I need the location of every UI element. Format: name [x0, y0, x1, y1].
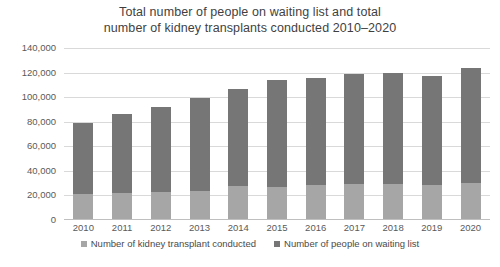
- x-axis-tick-label: 2017: [337, 222, 373, 236]
- legend-item[interactable]: Number of kidney transplant conducted: [81, 238, 256, 249]
- bar-segment-transplants[interactable]: [190, 191, 210, 220]
- y-axis-labels: 140,000120,000100,00080,00060,00040,0002…: [0, 48, 60, 220]
- chart-title-line-1: Total number of people on waiting list a…: [0, 4, 500, 20]
- bar-column[interactable]: [104, 48, 140, 220]
- bar-segment-transplants[interactable]: [267, 187, 287, 220]
- bar-column[interactable]: [65, 48, 101, 220]
- y-axis-tick-label: 40,000: [0, 166, 56, 176]
- stacked-bar[interactable]: [306, 78, 326, 220]
- legend-label: Number of people on waiting list: [284, 238, 419, 249]
- stacked-bar[interactable]: [383, 73, 403, 220]
- stacked-bar[interactable]: [112, 114, 132, 220]
- bar-segment-transplants[interactable]: [344, 184, 364, 220]
- bar-column[interactable]: [414, 48, 450, 220]
- bar-segment-waiting-list[interactable]: [228, 89, 248, 186]
- bar-group: [64, 48, 490, 220]
- x-axis-tick-label: 2020: [453, 222, 489, 236]
- bar-segment-waiting-list[interactable]: [151, 107, 171, 192]
- bar-segment-transplants[interactable]: [73, 194, 93, 220]
- bar-segment-transplants[interactable]: [112, 193, 132, 220]
- bar-segment-transplants[interactable]: [306, 185, 326, 220]
- bar-column[interactable]: [298, 48, 334, 220]
- bar-column[interactable]: [182, 48, 218, 220]
- stacked-bar[interactable]: [228, 89, 248, 220]
- x-axis-tick-label: 2019: [414, 222, 450, 236]
- y-axis-tick-label: 140,000: [0, 43, 56, 53]
- x-axis-tick-label: 2010: [65, 222, 101, 236]
- bar-column[interactable]: [143, 48, 179, 220]
- y-axis-tick-label: 60,000: [0, 141, 56, 151]
- bar-segment-waiting-list[interactable]: [344, 74, 364, 185]
- bar-column[interactable]: [375, 48, 411, 220]
- bar-column[interactable]: [453, 48, 489, 220]
- bar-segment-transplants[interactable]: [228, 186, 248, 220]
- chart-title-line-2: number of kidney transplants conducted 2…: [0, 20, 500, 36]
- bar-column[interactable]: [259, 48, 295, 220]
- x-axis-tick-label: 2013: [182, 222, 218, 236]
- bar-segment-waiting-list[interactable]: [190, 98, 210, 190]
- stacked-bar[interactable]: [344, 74, 364, 220]
- bar-segment-waiting-list[interactable]: [112, 114, 132, 193]
- chart-legend: Number of kidney transplant conductedNum…: [0, 238, 500, 249]
- x-axis-tick-label: 2014: [220, 222, 256, 236]
- y-axis-tick-label: 120,000: [0, 68, 56, 78]
- x-axis-tick-label: 2011: [104, 222, 140, 236]
- legend-swatch-icon: [81, 241, 87, 247]
- bar-segment-transplants[interactable]: [422, 185, 442, 220]
- bar-segment-transplants[interactable]: [383, 184, 403, 220]
- legend-label: Number of kidney transplant conducted: [91, 238, 256, 249]
- stacked-bar[interactable]: [73, 123, 93, 220]
- x-axis-tick-label: 2015: [259, 222, 295, 236]
- stacked-bar[interactable]: [267, 80, 287, 220]
- stacked-bar[interactable]: [422, 76, 442, 220]
- x-axis-tick-label: 2018: [375, 222, 411, 236]
- stacked-bar[interactable]: [461, 68, 481, 220]
- bar-segment-waiting-list[interactable]: [461, 68, 481, 183]
- y-axis-tick-label: 100,000: [0, 92, 56, 102]
- y-axis-tick-label: 0: [0, 215, 56, 225]
- bar-segment-waiting-list[interactable]: [422, 76, 442, 185]
- bar-segment-waiting-list[interactable]: [73, 123, 93, 194]
- bar-segment-waiting-list[interactable]: [306, 78, 326, 185]
- y-axis-tick-label: 20,000: [0, 190, 56, 200]
- y-axis-tick-label: 80,000: [0, 117, 56, 127]
- bar-segment-transplants[interactable]: [461, 183, 481, 220]
- chart-title: Total number of people on waiting list a…: [0, 4, 500, 36]
- chart-container: Total number of people on waiting list a…: [0, 0, 500, 267]
- x-axis-line: [64, 219, 490, 220]
- x-axis-labels: 2010201120122013201420152016201720182019…: [64, 222, 490, 236]
- x-axis-tick-label: 2012: [143, 222, 179, 236]
- plot-area: [64, 48, 490, 220]
- legend-swatch-icon: [274, 241, 280, 247]
- bar-segment-waiting-list[interactable]: [267, 80, 287, 187]
- bar-segment-waiting-list[interactable]: [383, 73, 403, 184]
- legend-item[interactable]: Number of people on waiting list: [274, 238, 419, 249]
- bar-segment-transplants[interactable]: [151, 192, 171, 220]
- bar-column[interactable]: [220, 48, 256, 220]
- stacked-bar[interactable]: [151, 107, 171, 220]
- bar-column[interactable]: [337, 48, 373, 220]
- x-axis-tick-label: 2016: [298, 222, 334, 236]
- stacked-bar[interactable]: [190, 98, 210, 220]
